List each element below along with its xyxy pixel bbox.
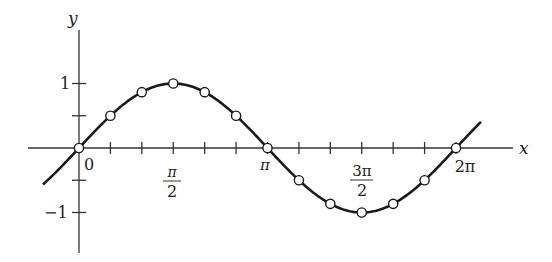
data-point	[263, 143, 272, 152]
sine-chart: x y 1 −1 0 π 2 π 3π 2 2π	[0, 0, 552, 262]
data-point	[357, 208, 366, 217]
data-point	[294, 176, 303, 185]
data-point	[106, 111, 115, 120]
data-point	[326, 199, 335, 208]
data-point	[137, 88, 146, 97]
x-tick-label-pi-half-num: π	[166, 164, 177, 180]
axes	[28, 30, 513, 253]
data-point	[74, 143, 83, 152]
x-tick-label-three-pi-half-num: 3π	[352, 162, 372, 180]
data-point	[420, 176, 429, 185]
data-point	[231, 111, 240, 120]
data-point	[389, 199, 398, 208]
x-tick-label-pi: π	[259, 156, 271, 174]
x-tick-label-three-pi-half-den: 2	[357, 181, 367, 200]
x-axis-label: x	[519, 138, 529, 158]
x-tick-label-pi-half-den: 2	[167, 182, 177, 201]
data-point	[169, 79, 178, 88]
data-point	[451, 143, 460, 152]
y-axis-label: y	[67, 8, 78, 28]
y-tick-label-1: 1	[60, 74, 70, 93]
x-tick-label-0: 0	[84, 155, 94, 174]
y-tick-label-minus-1: −1	[44, 203, 68, 222]
x-tick-label-two-pi: 2π	[455, 157, 476, 176]
data-point	[200, 88, 209, 97]
